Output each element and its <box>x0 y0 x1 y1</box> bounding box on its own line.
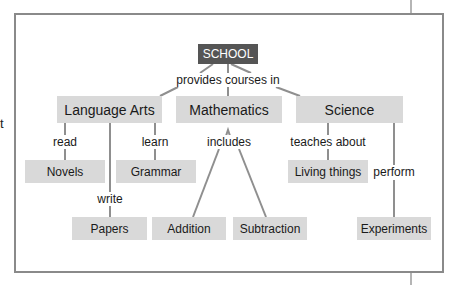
node-grammar: Grammar <box>116 160 196 183</box>
node-papers-label: Papers <box>90 222 128 236</box>
link-provides-courses-in: provides courses in <box>174 73 281 87</box>
link-perform: perform <box>371 165 416 179</box>
node-experiments-label: Experiments <box>361 222 428 236</box>
node-mathematics: Mathematics <box>176 96 282 123</box>
node-mathematics-label: Mathematics <box>189 102 268 118</box>
node-subtraction: Subtraction <box>233 217 307 240</box>
link-write: write <box>95 192 124 206</box>
node-novels-label: Novels <box>47 165 84 179</box>
node-addition-label: Addition <box>167 222 210 236</box>
node-addition: Addition <box>152 217 226 240</box>
node-papers: Papers <box>72 217 147 240</box>
node-school-label: SCHOOL <box>203 47 254 61</box>
link-teaches-about: teaches about <box>288 135 367 149</box>
node-science: Science <box>296 96 403 123</box>
node-subtraction-label: Subtraction <box>240 222 301 236</box>
node-grammar-label: Grammar <box>131 165 182 179</box>
link-read: read <box>51 135 79 149</box>
node-language-arts: Language Arts <box>57 96 162 123</box>
link-includes: includes <box>205 135 253 149</box>
node-language-arts-label: Language Arts <box>64 102 154 118</box>
node-novels: Novels <box>25 160 105 183</box>
node-science-label: Science <box>325 102 375 118</box>
link-learn: learn <box>140 135 171 149</box>
node-school: SCHOOL <box>198 44 258 64</box>
node-living-things: Living things <box>288 160 368 183</box>
node-living-things-label: Living things <box>295 165 362 179</box>
node-experiments: Experiments <box>357 217 431 240</box>
